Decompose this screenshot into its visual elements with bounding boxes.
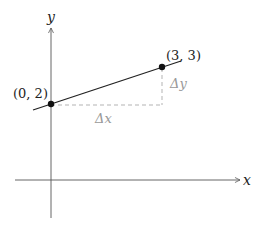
- delta-x-label: Δx: [94, 111, 112, 126]
- point-0-2: [48, 101, 54, 107]
- point-3-3-label: (3, 3): [166, 48, 201, 63]
- delta-y-label: Δy: [169, 76, 187, 91]
- point-0-2-label: (0, 2): [13, 86, 48, 101]
- secant-line: [33, 61, 181, 110]
- x-axis-label: x: [243, 172, 251, 188]
- point-3-3: [159, 64, 165, 70]
- slope-diagram: x y Δx Δy (0, 2) (3, 3): [0, 0, 258, 228]
- y-axis-label: y: [46, 9, 56, 25]
